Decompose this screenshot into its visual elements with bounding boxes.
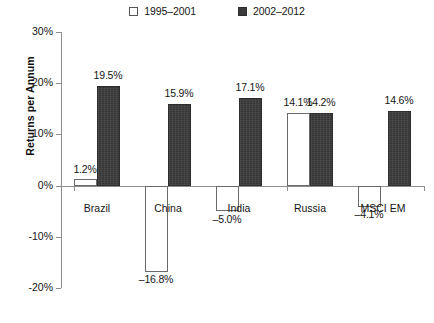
legend-swatch-filled-square <box>238 7 247 16</box>
bar-brazil-2002-2012 <box>97 86 120 186</box>
bar-label-india-1995-2001: –5.0% <box>204 213 250 225</box>
y-tick-neg20: -20% <box>56 288 61 289</box>
x-tick-5 <box>424 186 425 191</box>
bar-label-russia-2002-2012: 14.2% <box>298 96 344 108</box>
bar-russia-1995-2001 <box>287 113 310 185</box>
bar-russia-2002-2012 <box>310 113 333 186</box>
x-tick-3 <box>287 186 288 191</box>
chart-legend: 1995–2001 2002–2012 <box>0 3 434 19</box>
y-tick-label-neg10: -10% <box>7 230 53 242</box>
y-tick-neg10: -10% <box>56 237 61 238</box>
bar-china-1995-2001 <box>145 186 168 272</box>
x-category-label-brazil: Brazil <box>57 202 137 214</box>
x-category-label-india: India <box>199 202 279 214</box>
y-tick-30: 30% <box>56 32 61 33</box>
bar-brazil-1995-2001 <box>74 179 97 185</box>
y-tick-label-20: 20% <box>7 76 53 88</box>
bar-label-brazil-2002-2012: 19.5% <box>85 69 131 81</box>
x-category-label-msci-em: MSCI EM <box>343 202 423 214</box>
bar-china-2002-2012 <box>168 104 191 185</box>
legend-item-series-2: 2002–2012 <box>238 5 305 17</box>
legend-label-series-1: 1995–2001 <box>144 5 196 17</box>
y-axis-line <box>61 32 62 288</box>
legend-label-series-2: 2002–2012 <box>253 5 305 17</box>
y-tick-0: 0% <box>56 186 61 187</box>
y-tick-20: 20% <box>56 83 61 84</box>
y-axis-title: Returns per Annum <box>24 36 36 176</box>
y-tick-label-0: 0% <box>7 179 53 191</box>
legend-swatch-open-square <box>129 7 138 16</box>
y-tick-10: 10% <box>56 134 61 135</box>
y-tick-label-10: 10% <box>7 127 53 139</box>
bar-label-msci-em-2002-2012: 14.6% <box>376 94 422 106</box>
x-category-label-russia: Russia <box>270 202 350 214</box>
legend-item-series-1: 1995–2001 <box>129 5 196 17</box>
x-tick-0 <box>74 186 75 191</box>
bar-label-india-2002-2012: 17.1% <box>227 81 273 93</box>
bar-india-2002-2012 <box>239 98 262 186</box>
bar-label-china-2002-2012: 15.9% <box>156 87 202 99</box>
bar-chart-figure: 1995–2001 2002–2012 Returns per Annum 30… <box>0 0 434 323</box>
y-tick-label-neg20: -20% <box>7 281 53 293</box>
plot-area: 30% 20% 10% 0% -10% -20% 1.2% 19.5% –16 <box>61 32 425 288</box>
x-category-label-china: China <box>128 202 208 214</box>
bar-label-china-1995-2001: –16.8% <box>133 273 179 285</box>
bar-msci-em-2002-2012 <box>388 111 411 186</box>
y-tick-label-30: 30% <box>7 25 53 37</box>
